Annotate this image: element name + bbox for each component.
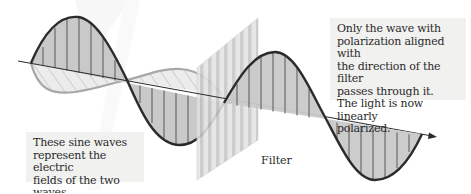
callout-line: the direction of the filter bbox=[337, 61, 459, 86]
callout-polarized-result: Only the wave with polarization aligned … bbox=[330, 18, 466, 100]
callout-line: polarization aligned with bbox=[337, 36, 459, 61]
callout-line: fields of the two waves. bbox=[33, 175, 137, 194]
callout-line: Only the wave with bbox=[337, 23, 459, 36]
callout-line: represent the electric bbox=[33, 150, 137, 175]
callout-line: These sine waves bbox=[33, 137, 137, 150]
callout-line: The light is now linearly bbox=[337, 98, 459, 123]
filter-label: Filter bbox=[261, 154, 292, 167]
callout-line: polarized. bbox=[337, 123, 459, 136]
callout-electric-fields: These sine waves represent the electric … bbox=[26, 132, 144, 182]
polarization-diagram: These sine waves represent the electric … bbox=[0, 0, 471, 193]
